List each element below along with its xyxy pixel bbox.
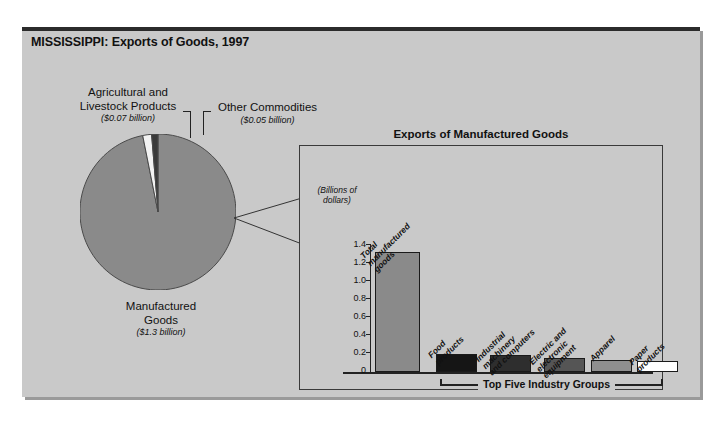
y-tick-mark-1-0 [366, 280, 370, 281]
y-tick-label-0-4: 0.4 [336, 329, 366, 339]
pie-label-other-value: ($0.05 billion) [205, 115, 330, 126]
y-tick-label-0-2: 0.2 [336, 347, 366, 357]
industry-bracket-label: Top Five Industry Groups [478, 378, 615, 390]
inset-chart-panel: (Billions ofdollars) 1.4 1.2 1.0 0.8 0.6… [299, 145, 663, 390]
pie-svg [80, 134, 236, 290]
callout-connector [232, 196, 304, 246]
leader-line-agricultural-horizontal [183, 111, 191, 112]
y-tick-mark-0-4 [366, 334, 370, 335]
industry-bracket-tick-right [661, 379, 663, 385]
y-tick-label-0-8: 0.8 [336, 293, 366, 303]
leader-line-other-horizontal [203, 111, 211, 112]
bar-plot-area: 1.4 1.2 1.0 0.8 0.6 0.4 0.2 0 Total manu… [300, 146, 664, 391]
inset-title: Exports of Manufactured Goods [299, 128, 663, 140]
leader-line-agricultural-vertical [190, 111, 191, 138]
y-tick-label-1-4: 1.4 [336, 239, 366, 249]
y-tick-label-0-6: 0.6 [336, 311, 366, 321]
pie-label-agricultural-value: ($0.07 billion) [58, 113, 198, 124]
panel-shadow-right [700, 31, 703, 400]
y-tick-label-1-2: 1.2 [336, 257, 366, 267]
pie-chart [80, 134, 236, 290]
pie-label-agricultural: Agricultural andLivestock Products ($0.0… [58, 86, 198, 124]
pie-label-agricultural-name: Agricultural andLivestock Products [58, 86, 198, 113]
pie-label-other: Other Commodities ($0.05 billion) [205, 101, 330, 125]
bar-apparel [591, 360, 632, 372]
y-tick-mark-0-2 [366, 352, 370, 353]
y-tick-label-1-0: 1.0 [336, 275, 366, 285]
panel-shadow-bottom [25, 397, 703, 400]
pie-label-manufactured: ManufacturedGoods ($1.3 billion) [96, 300, 226, 338]
leader-line-other-vertical [203, 111, 204, 135]
page-title: MISSISSIPPI: Exports of Goods, 1997 [31, 35, 249, 49]
pie-label-manufactured-value: ($1.3 billion) [96, 327, 226, 338]
pie-label-manufactured-name: ManufacturedGoods [96, 300, 226, 327]
y-tick-mark-0-6 [366, 316, 370, 317]
industry-bracket-tick-left [440, 379, 442, 385]
y-tick-label-0: 0 [336, 365, 366, 375]
y-tick-mark-0-8 [366, 298, 370, 299]
title-rule [22, 27, 700, 31]
pie-label-other-name: Other Commodities [205, 101, 330, 115]
